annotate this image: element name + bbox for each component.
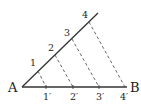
label-1: 1 xyxy=(30,57,36,68)
dashed-line-1 xyxy=(38,71,46,87)
label-3prime: 3′ xyxy=(96,91,104,102)
label-a: A xyxy=(7,80,18,95)
label-1prime: 1′ xyxy=(43,91,51,102)
ray-from-a xyxy=(22,13,98,87)
label-3: 3 xyxy=(64,27,70,38)
segment-division-diagram: A B 1 2 3 4 1′ 2′ 3′ 4′ xyxy=(0,0,141,108)
label-4prime: 4′ xyxy=(120,91,128,102)
label-b: B xyxy=(130,80,140,95)
label-2: 2 xyxy=(48,42,54,53)
dashed-line-3 xyxy=(72,39,99,87)
dashed-line-4 xyxy=(89,22,125,87)
dashed-line-2 xyxy=(55,55,73,87)
label-4: 4 xyxy=(82,9,88,20)
label-2prime: 2′ xyxy=(70,91,78,102)
